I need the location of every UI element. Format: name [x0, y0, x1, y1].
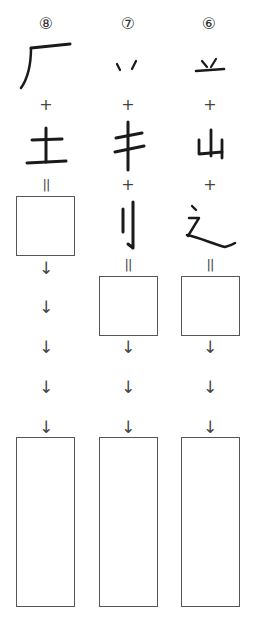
radical-cliff-part — [20, 40, 72, 92]
down-arrow: ↓ — [118, 379, 138, 396]
equals-sign: || — [36, 178, 56, 191]
down-arrow: ↓ — [36, 299, 56, 316]
earth-part — [24, 126, 68, 166]
answer-box[interactable] — [16, 196, 75, 256]
problem-number: ⑦ — [113, 16, 143, 32]
plus-operator: + — [36, 97, 56, 113]
down-arrow: ↓ — [200, 339, 220, 356]
down-arrow: ↓ — [118, 339, 138, 356]
problem-number: ⑥ — [194, 16, 224, 32]
plus-operator: + — [200, 97, 220, 113]
equals-sign: || — [118, 258, 138, 271]
down-arrow: ↓ — [118, 419, 138, 436]
writing-box[interactable] — [99, 437, 158, 607]
equals-sign: || — [200, 258, 220, 271]
feng-part — [112, 120, 146, 174]
problem-number: ⑧ — [31, 16, 61, 32]
answer-box[interactable] — [99, 276, 158, 336]
down-arrow: ↓ — [36, 419, 56, 436]
down-arrow: ↓ — [36, 379, 56, 396]
writing-box[interactable] — [181, 437, 240, 607]
grass-top-part — [194, 56, 228, 76]
plus-operator: + — [118, 97, 138, 113]
mountain-part — [196, 128, 226, 162]
down-arrow: ↓ — [36, 260, 56, 277]
writing-box[interactable] — [16, 437, 75, 607]
plus-operator: + — [118, 177, 138, 193]
plus-operator: + — [200, 177, 220, 193]
answer-box[interactable] — [181, 276, 240, 336]
down-arrow: ↓ — [200, 419, 220, 436]
down-arrow: ↓ — [36, 339, 56, 356]
down-arrow: ↓ — [200, 379, 220, 396]
knife-radical-part — [116, 200, 140, 254]
eight-top-part — [112, 58, 142, 74]
walk-radical-part — [183, 200, 239, 250]
